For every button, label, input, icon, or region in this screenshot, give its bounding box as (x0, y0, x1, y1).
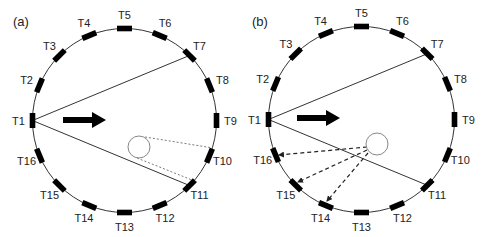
scatter-arrow-t14 (327, 153, 368, 201)
transducer-marker-t14 (81, 200, 97, 211)
transducer-label-t2: T2 (20, 74, 33, 86)
propagation-arrow-icon (297, 110, 340, 126)
transducer-marker-t5 (117, 26, 132, 32)
transducer-label-t15: T15 (40, 189, 59, 201)
beam-line-t1-t11 (33, 121, 190, 186)
transducer-marker-t14 (318, 200, 334, 211)
transducer-marker-t6 (152, 30, 168, 41)
transducer-label-t10: T10 (451, 154, 470, 166)
beam-line-t1-t11 (269, 120, 428, 186)
transducer-label-t5: T5 (118, 9, 131, 21)
transducer-marker-t8 (442, 76, 453, 92)
transducer-label-t12: T12 (393, 212, 412, 224)
shadow-line (145, 137, 213, 148)
transducer-label-t1: T1 (248, 114, 261, 126)
transducer-label-t13: T13 (352, 221, 371, 233)
beam-line-t1-t7 (269, 54, 428, 120)
transducer-label-t11: T11 (190, 189, 208, 201)
transducer-label-t4: T4 (78, 17, 91, 29)
transducer-label-t16: T16 (253, 154, 272, 166)
transducer-label-t7: T7 (431, 38, 444, 50)
panel-b: (b)T1T2T3T4T5T6T7T8T9T10T11T12T13T14T15T… (248, 7, 475, 233)
transducer-label-t10: T10 (213, 155, 232, 167)
transducer-marker-t4 (81, 30, 97, 41)
transducer-label-t2: T2 (256, 73, 269, 85)
transducer-label-t3: T3 (279, 38, 292, 50)
transducer-label-t14: T14 (74, 212, 93, 224)
transducer-label-t3: T3 (43, 40, 56, 52)
transducer-label-t8: T8 (454, 73, 467, 85)
shadow-line (137, 158, 197, 182)
transducer-label-t12: T12 (156, 212, 175, 224)
transducer-marker-t13 (117, 210, 132, 216)
transducer-label-t13: T13 (115, 221, 134, 233)
scatterer-circle (366, 133, 388, 155)
transducer-label-t9: T9 (224, 115, 237, 127)
transducer-label-t7: T7 (193, 40, 206, 52)
transducer-label-t15: T15 (276, 189, 295, 201)
transducer-marker-t12 (152, 200, 168, 211)
transducer-marker-t4 (318, 28, 334, 39)
transducer-marker-t2 (34, 77, 45, 93)
transducer-label-t8: T8 (216, 74, 229, 86)
panel-a: (a)T1T2T3T4T5T6T7T8T9T10T11T12T13T14T15T… (12, 9, 237, 233)
transducer-label-t6: T6 (159, 17, 172, 29)
panel-label: (a) (13, 14, 29, 29)
beam-line-t1-t7 (33, 55, 190, 120)
transducer-marker-t9 (452, 112, 458, 127)
transducer-label-t1: T1 (12, 115, 25, 127)
transducer-marker-t1 (30, 113, 36, 128)
transducer-label-t14: T14 (311, 212, 330, 224)
propagation-arrow-icon (63, 112, 106, 128)
transducer-label-t9: T9 (462, 114, 475, 126)
transducer-marker-t2 (270, 76, 281, 92)
transducer-label-t5: T5 (355, 7, 368, 19)
diagram-stage: (a)T1T2T3T4T5T6T7T8T9T10T11T12T13T14T15T… (0, 0, 484, 237)
transducer-marker-t13 (354, 210, 369, 216)
scatterer-circle (128, 136, 150, 158)
transducer-label-t11: T11 (428, 189, 446, 201)
transducer-marker-t9 (214, 113, 220, 128)
transducer-marker-t8 (204, 77, 215, 93)
transducer-marker-t1 (266, 112, 272, 127)
panel-label: (b) (252, 14, 268, 29)
transducer-label-t6: T6 (396, 15, 409, 27)
transducer-marker-t12 (389, 200, 405, 211)
transducer-marker-t5 (354, 24, 369, 30)
transducer-marker-t6 (389, 28, 405, 39)
scatter-arrow-t16 (279, 147, 367, 155)
transducer-label-t16: T16 (17, 155, 36, 167)
transducer-label-t4: T4 (314, 15, 327, 27)
tomography-diagram: (a)T1T2T3T4T5T6T7T8T9T10T11T12T13T14T15T… (0, 0, 484, 237)
